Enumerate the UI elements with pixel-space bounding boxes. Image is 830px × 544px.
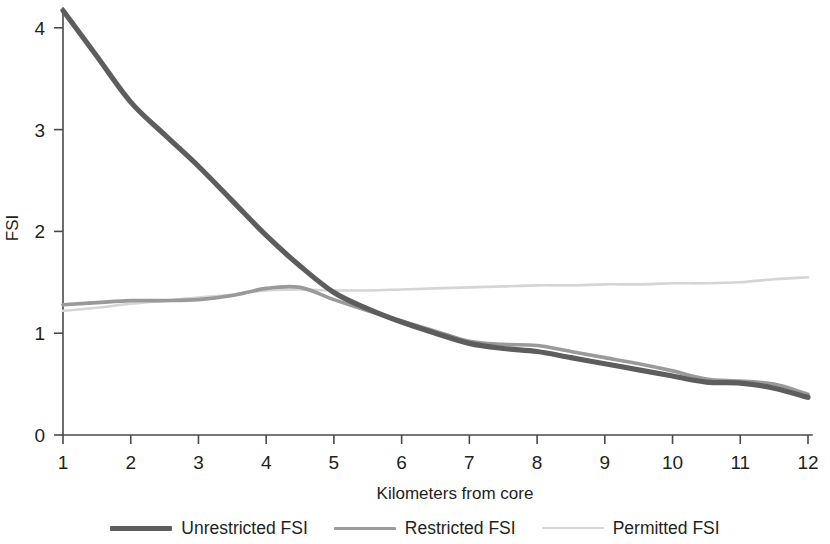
chart-figure: 01234 123456789101112 Kilometers from co… [0,0,830,544]
x-tick-label: 12 [797,452,818,473]
legend-swatch-unrestricted [110,526,172,531]
legend-label-restricted: Restricted FSI [405,518,516,539]
legend-swatch-restricted [334,527,396,530]
x-tick-label: 7 [464,452,475,473]
series-lines [63,10,808,397]
chart-legend: Unrestricted FSI Restricted FSI Permitte… [0,512,830,544]
y-tick-label: 1 [34,323,45,344]
x-tick-label: 1 [58,452,69,473]
series-line-permitted-fsi [63,277,808,311]
x-tick-label: 11 [730,452,750,473]
line-chart-canvas: 01234 123456789101112 Kilometers from co… [0,0,830,512]
y-axis-title: FSI [3,215,22,241]
legend-swatch-permitted [542,527,604,529]
legend-label-permitted: Permitted FSI [613,518,720,539]
x-tick-label: 10 [662,452,683,473]
legend-item-restricted: Restricted FSI [334,518,516,539]
x-tick-label: 8 [532,452,543,473]
x-axis-ticks: 123456789101112 [58,435,819,473]
x-tick-label: 5 [329,452,340,473]
y-tick-label: 0 [34,425,45,446]
legend-item-unrestricted: Unrestricted FSI [110,518,307,539]
legend-item-permitted: Permitted FSI [542,518,720,539]
x-tick-label: 9 [600,452,611,473]
legend-label-unrestricted: Unrestricted FSI [181,518,307,539]
x-tick-label: 4 [261,452,272,473]
series-line-unrestricted-fsi [63,10,808,397]
x-tick-label: 2 [125,452,136,473]
x-tick-label: 6 [396,452,407,473]
y-tick-label: 3 [34,120,45,141]
y-axis-ticks: 01234 [34,18,63,446]
y-tick-label: 4 [34,18,45,39]
x-tick-label: 3 [193,452,204,473]
y-tick-label: 2 [34,221,45,242]
x-axis-title: Kilometers from core [377,484,534,503]
